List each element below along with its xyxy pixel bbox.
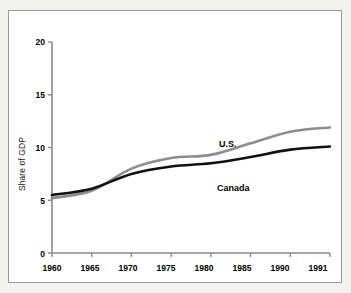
axis-lines: [52, 42, 330, 253]
series-line-canada: [52, 146, 330, 195]
chart-frame: Share of GDP 20 15 10 5 0 1960 1965 1970…: [8, 10, 342, 283]
chart-canvas: [9, 11, 343, 284]
plot-area: Share of GDP 20 15 10 5 0 1960 1965 1970…: [9, 11, 343, 284]
series-paths: [52, 127, 330, 198]
figure-root: Share of GDP 20 15 10 5 0 1960 1965 1970…: [0, 0, 351, 293]
